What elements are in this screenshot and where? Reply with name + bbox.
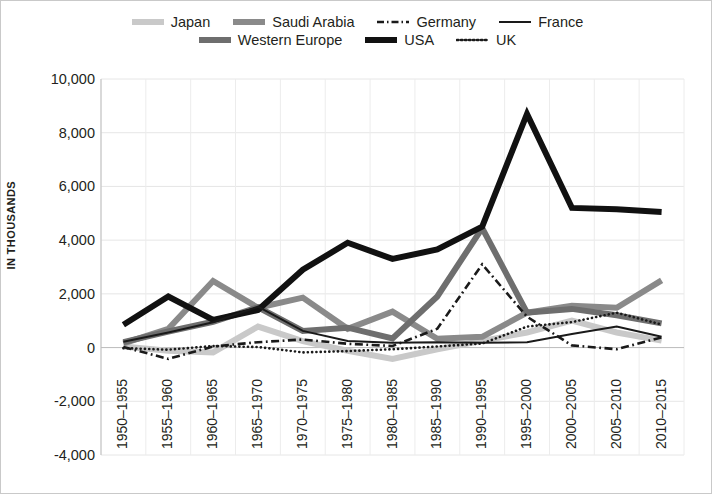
plot-area — [1, 1, 712, 494]
chart-container: JapanSaudi ArabiaGermanyFranceWestern Eu… — [0, 0, 712, 494]
